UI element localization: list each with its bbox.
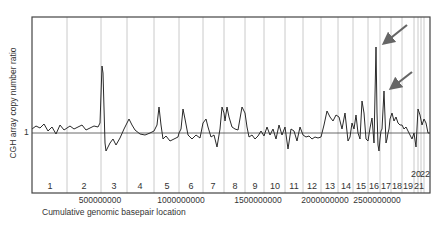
arrow-icon xyxy=(387,25,407,41)
chromosome-label: 8 xyxy=(232,181,237,191)
chromosome-label: 7 xyxy=(210,181,215,191)
chromosome-label: 6 xyxy=(188,181,193,191)
chromosome-dividers xyxy=(67,17,424,193)
chromosome-label: 16 xyxy=(369,181,379,191)
arrow-icon xyxy=(394,72,412,86)
chromosome-label: 19 xyxy=(403,181,413,191)
x-axis-label: Cumulative genomic basepair location xyxy=(42,207,186,217)
chromosome-label: 21 xyxy=(414,181,424,191)
chromosome-label: 2 xyxy=(81,181,86,191)
x-tick-label: 2000000000 xyxy=(301,195,348,205)
cgh-chart: CGH array copy number ratio 1 5000000001… xyxy=(0,0,444,228)
x-tick-label: 1500000000 xyxy=(234,195,281,205)
chromosome-label: 4 xyxy=(137,181,142,191)
y-axis-label: CGH array copy number ratio xyxy=(8,28,18,178)
chromosome-label: 11 xyxy=(289,181,298,191)
chromosome-label: 17 xyxy=(381,181,391,191)
chromosome-label: 10 xyxy=(270,181,280,191)
chromosome-label: 3 xyxy=(111,181,116,191)
chromosome-label: 18 xyxy=(392,181,402,191)
chromosome-label: 14 xyxy=(341,181,351,191)
chromosome-label: 22 xyxy=(420,169,430,179)
x-tick-label: 500000000 xyxy=(79,195,122,205)
y-tick-1: 1 xyxy=(24,127,29,137)
chromosome-label: 5 xyxy=(164,181,169,191)
plot-frame xyxy=(32,17,430,193)
copy-number-trace xyxy=(32,47,430,151)
plot-area xyxy=(0,0,444,228)
chromosome-label: 9 xyxy=(252,181,257,191)
chromosome-label: 12 xyxy=(307,181,317,191)
chromosome-label: 13 xyxy=(325,181,335,191)
chromosome-label: 15 xyxy=(356,181,366,191)
x-tick-label: 2500000000 xyxy=(353,195,400,205)
x-tick-label: 1000000000 xyxy=(157,195,204,205)
chromosome-label: 1 xyxy=(47,181,52,191)
